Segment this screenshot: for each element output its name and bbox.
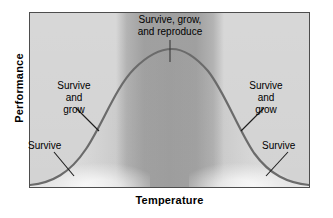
annotation-left-survive: Survive bbox=[28, 140, 84, 152]
thermal-performance-curve-figure: Performance bbox=[0, 0, 333, 218]
y-axis-label: Performance bbox=[13, 28, 25, 148]
x-axis-label: Temperature bbox=[29, 194, 310, 206]
annotation-left-survive-and-grow: Survive and grow bbox=[46, 80, 102, 116]
annotation-optimal: Survive, grow, and reproduce bbox=[110, 14, 230, 38]
annotation-right-survive-and-grow: Survive and grow bbox=[238, 80, 294, 116]
annotation-right-survive: Survive bbox=[262, 140, 318, 152]
